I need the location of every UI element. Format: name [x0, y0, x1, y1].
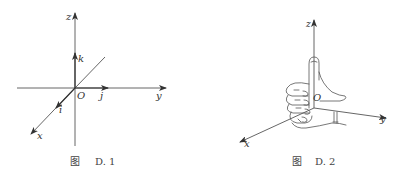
figure-d1: z k O j y i x 图 D. 1	[17, 11, 166, 167]
caption-number: D. 1	[95, 156, 115, 167]
x-label: x	[37, 130, 43, 141]
j-label: j	[98, 90, 103, 101]
figure-d2: z O y x 图 D. 2	[240, 19, 386, 167]
y-label: y	[379, 113, 386, 124]
figure-canvas: z k O j y i x 图 D. 1	[0, 0, 404, 181]
caption-prefix: 图	[292, 156, 302, 167]
caption-number: D. 2	[315, 156, 335, 167]
x-label: x	[244, 138, 250, 149]
z-label: z	[65, 11, 72, 22]
y-axis	[314, 108, 386, 118]
k-label: k	[78, 53, 84, 64]
origin-label: O	[313, 92, 321, 103]
i-label: i	[59, 104, 62, 115]
y-label: y	[155, 90, 162, 101]
z-label: z	[305, 19, 311, 29]
origin-label: O	[77, 90, 85, 101]
caption-prefix: 图	[70, 156, 80, 167]
